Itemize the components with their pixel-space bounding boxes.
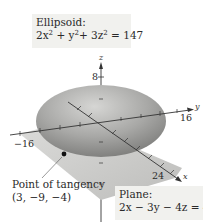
z-axis-name: z xyxy=(99,53,103,62)
tangency-coords: (3, −9, −4) xyxy=(12,191,71,204)
plane-equation: 2x − 3y − 4z = 49 xyxy=(119,201,199,214)
tangency-leader xyxy=(42,157,62,178)
plane-title: Plane: xyxy=(119,188,199,201)
ellipsoid-surface xyxy=(36,85,166,157)
ellipsoid-equation: 2x2 + y2+ 3z2 = 147 xyxy=(36,29,127,42)
tangency-label: Point of tangency xyxy=(12,178,105,191)
ellipsoid-label: Ellipsoid: 2x2 + y2+ 3z2 = 147 xyxy=(32,14,131,48)
y-axis-name: y xyxy=(195,102,200,111)
tangency-point xyxy=(62,152,67,157)
plane-label: Plane: 2x − 3y − 4z = 49 xyxy=(115,186,203,220)
ellipsoid-title: Ellipsoid: xyxy=(36,16,127,29)
y-tick-16: 16 xyxy=(180,112,192,123)
x-axis-name: x xyxy=(183,172,188,181)
x-tick-24: 24 xyxy=(152,170,164,181)
y-tick-neg16: −16 xyxy=(14,138,34,149)
z-tick-8: 8 xyxy=(92,71,98,82)
